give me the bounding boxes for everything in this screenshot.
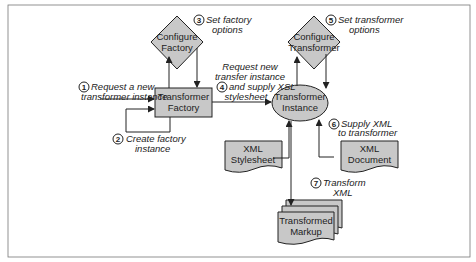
- svg-text:2: 2: [116, 135, 121, 144]
- svg-text:XML: XML: [332, 187, 353, 198]
- diagram-frame: [8, 5, 470, 257]
- transformer-instance-label-2: Instance: [282, 102, 318, 113]
- svg-text:5: 5: [329, 16, 334, 25]
- transformed-markup-node: Transformed Markup: [278, 200, 342, 244]
- svg-text:instance: instance: [135, 143, 170, 154]
- svg-text:options: options: [349, 24, 380, 35]
- transformer-factory-label-2: Factory: [168, 102, 200, 113]
- svg-text:stylesheet: stylesheet: [225, 91, 268, 102]
- svg-text:3: 3: [197, 16, 202, 25]
- svg-text:transformer instance: transformer instance: [81, 91, 168, 102]
- svg-text:6: 6: [332, 120, 337, 129]
- xml-stylesheet-label-2: Stylesheet: [231, 154, 276, 165]
- diagram-canvas: Configure Factory Transformer Factory Co…: [0, 0, 476, 262]
- configure-factory-label-2: Factory: [161, 42, 193, 53]
- step-1-label: 1 Request a new transformer instance: [79, 81, 168, 102]
- svg-text:options: options: [212, 24, 243, 35]
- configure-transformer-label-1: Configure: [293, 31, 334, 42]
- configure-transformer-label-2: Transformer: [288, 42, 339, 53]
- xml-document-label-2: Document: [348, 154, 392, 165]
- transformed-markup-label-2: Markup: [290, 226, 322, 237]
- svg-text:7: 7: [314, 179, 319, 188]
- xml-document-label-1: XML: [360, 143, 380, 154]
- svg-text:to transformer: to transformer: [338, 127, 398, 138]
- xml-stylesheet-label-1: XML: [243, 143, 263, 154]
- configure-factory-label-1: Configure: [156, 31, 197, 42]
- transformer-instance-label-1: Transformer: [274, 91, 325, 102]
- transformed-markup-label-1: Transformed: [279, 215, 333, 226]
